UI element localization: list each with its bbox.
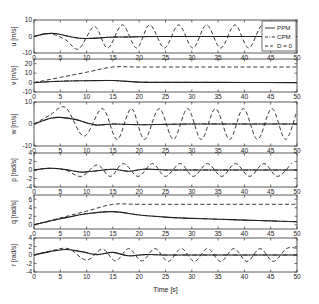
x-tick-label: 0 [32, 273, 36, 280]
x-tick-label: 10 [83, 188, 91, 195]
y-tick-label: 2 [28, 213, 32, 220]
x-tick-label: 40 [241, 188, 249, 195]
x-tick-label: 5 [58, 93, 62, 100]
x-axis-label: Time [s] [153, 286, 178, 294]
x-tick-label: 45 [267, 93, 275, 100]
x-tick-label: 45 [267, 273, 275, 280]
subplot-u: 05101520253035404550-10010u [m/s] [10, 16, 301, 61]
subplot-p: 05101520253035404550-4-2024p [rad/s] [10, 149, 301, 195]
x-tick-label: 5 [58, 188, 62, 195]
legend-entry: CPM [277, 33, 291, 40]
y-tick-label: 4 [28, 149, 32, 156]
series-ppm [34, 212, 297, 225]
y-tick-label: -10 [23, 88, 33, 95]
legend-entry: PPM [277, 24, 290, 31]
axes-box [34, 195, 297, 229]
x-tick-label: 20 [136, 273, 144, 280]
x-tick-label: 35 [214, 273, 222, 280]
x-tick-label: 30 [188, 230, 196, 237]
series-cpm [34, 33, 297, 38]
series-d-0 [34, 67, 297, 83]
y-axis-label: p [rad/s] [10, 158, 18, 182]
x-tick-label: 25 [162, 273, 170, 280]
x-tick-label: 25 [162, 93, 170, 100]
y-tick-label: -10 [23, 49, 33, 56]
y-tick-label: 10 [25, 16, 33, 23]
y-axis-label: u [m/s] [10, 27, 18, 47]
legend: PPMCPMD = 0 [262, 21, 296, 51]
series-d-0 [34, 107, 297, 140]
x-tick-label: 0 [32, 188, 36, 195]
x-tick-label: 5 [58, 230, 62, 237]
x-tick-label: 35 [214, 230, 222, 237]
x-tick-label: 35 [214, 93, 222, 100]
y-tick-label: 0 [28, 33, 32, 40]
y-tick-label: 4 [28, 234, 32, 241]
y-tick-label: 0 [28, 166, 32, 173]
x-tick-label: 20 [136, 230, 144, 237]
subplots-canvas: 05101520253035404550-10010u [m/s]0510152… [0, 0, 319, 304]
x-tick-label: 30 [188, 188, 196, 195]
x-tick-label: 15 [109, 93, 117, 100]
x-tick-label: 0 [32, 93, 36, 100]
y-tick-label: 2 [28, 243, 32, 250]
x-tick-label: 40 [241, 93, 249, 100]
x-tick-label: 45 [267, 188, 275, 195]
x-tick-label: 20 [136, 93, 144, 100]
y-tick-label: 10 [25, 98, 33, 105]
subplot-v: 05101520253035404550-1001020v [m/s] [10, 59, 301, 100]
x-tick-label: 0 [32, 230, 36, 237]
x-tick-label: 50 [293, 230, 301, 237]
legend-entry: D = 0 [277, 42, 293, 49]
x-tick-label: 30 [188, 93, 196, 100]
y-tick-label: 0 [28, 221, 32, 228]
x-tick-label: 30 [188, 273, 196, 280]
x-tick-label: 15 [109, 188, 117, 195]
y-tick-label: -2 [26, 175, 32, 182]
y-axis-label: q [rad/s] [10, 200, 18, 224]
y-tick-label: 20 [25, 60, 33, 67]
y-axis-label: r [rad/s] [10, 244, 18, 266]
y-tick-label: -2 [26, 260, 32, 267]
y-tick-label: 0 [28, 251, 32, 258]
y-tick-label: -10 [23, 142, 33, 149]
y-tick-label: 6 [28, 196, 32, 203]
y-tick-label: -4 [26, 183, 32, 190]
x-tick-label: 25 [162, 230, 170, 237]
x-tick-label: 45 [267, 230, 275, 237]
x-tick-label: 15 [109, 273, 117, 280]
y-tick-label: 0 [28, 120, 32, 127]
x-tick-label: 20 [136, 188, 144, 195]
y-axis-label: v [m/s] [10, 66, 18, 85]
x-tick-label: 10 [83, 93, 91, 100]
y-tick-label: 10 [25, 69, 33, 76]
axes-box [34, 59, 297, 92]
subplot-q: 051015202530354045500246q [rad/s] [10, 195, 301, 237]
x-tick-label: 50 [293, 93, 301, 100]
x-tick-label: 35 [214, 188, 222, 195]
x-tick-label: 10 [83, 230, 91, 237]
y-axis-label: w [m/s] [10, 114, 18, 136]
subplot-r: 05101520253035404550-4-2024r [rad/s] [10, 234, 301, 280]
x-tick-label: 10 [83, 273, 91, 280]
x-tick-label: 15 [109, 230, 117, 237]
x-tick-label: 40 [241, 273, 249, 280]
x-tick-label: 50 [293, 188, 301, 195]
series-d-0 [34, 204, 297, 225]
x-tick-label: 5 [58, 273, 62, 280]
subplot-w: 05101520253035404550-10010w [m/s] [10, 98, 301, 154]
series-cpm [34, 212, 297, 225]
x-tick-label: 25 [162, 188, 170, 195]
x-tick-label: 50 [293, 273, 301, 280]
y-tick-label: -4 [26, 268, 32, 275]
figure: 05101520253035404550-10010u [m/s]0510152… [0, 0, 319, 304]
y-tick-label: 4 [28, 204, 32, 211]
y-tick-label: 2 [28, 158, 32, 165]
y-tick-label: 0 [28, 79, 32, 86]
x-tick-label: 40 [241, 230, 249, 237]
